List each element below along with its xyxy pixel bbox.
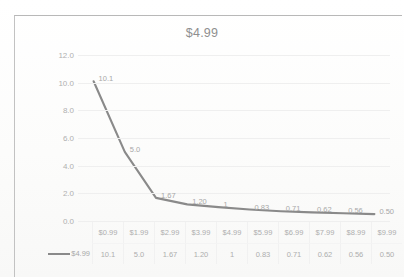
data-point-label: 1.20 bbox=[192, 197, 207, 206]
table-cell-value: 0.56 bbox=[340, 243, 371, 264]
table-cell-category: $4.99 bbox=[216, 222, 247, 243]
legend-line-icon bbox=[48, 253, 70, 255]
table-cell-value: 10.1 bbox=[92, 243, 123, 264]
gridline bbox=[78, 83, 390, 84]
chart-screenshot: $4.99 12.010.08.06.04.02.00.0 10.15.01.6… bbox=[0, 0, 404, 277]
data-point-label: 1.67 bbox=[161, 190, 176, 199]
chart-data-table: $0.99$1.99$2.99$3.99$4.99$5.99$6.99$7.99… bbox=[14, 222, 402, 264]
gridline bbox=[78, 138, 390, 139]
y-axis-tick-label: 4.0 bbox=[40, 161, 74, 170]
y-axis-tick-label: 2.0 bbox=[40, 189, 74, 198]
table-row-categories: $0.99$1.99$2.99$3.99$4.99$5.99$6.99$7.99… bbox=[14, 222, 402, 243]
y-axis: 12.010.08.06.04.02.00.0 bbox=[36, 55, 74, 221]
legend-entry-series[interactable]: $4.99 bbox=[14, 249, 92, 258]
data-point-label: 0.50 bbox=[379, 207, 394, 216]
table-cell-category: $0.99 bbox=[92, 222, 123, 243]
chart-title: $4.99 bbox=[0, 26, 404, 40]
table-row-values: $4.99 10.15.01.671.2010.830.710.620.560.… bbox=[14, 243, 402, 264]
gridline bbox=[78, 110, 390, 111]
table-cell-category: $6.99 bbox=[278, 222, 309, 243]
table-cell-category: $7.99 bbox=[309, 222, 340, 243]
table-cell-category: $3.99 bbox=[185, 222, 216, 243]
gridline bbox=[78, 55, 390, 56]
table-cell-value: 0.50 bbox=[371, 243, 402, 264]
table-cell-value: 1.67 bbox=[154, 243, 185, 264]
gridline bbox=[78, 193, 390, 194]
table-cell-category: $8.99 bbox=[340, 222, 371, 243]
data-point-label: 0.56 bbox=[348, 206, 363, 215]
data-point-label: 1 bbox=[223, 200, 227, 209]
y-axis-tick-label: 6.0 bbox=[40, 134, 74, 143]
table-cell-value: 0.83 bbox=[247, 243, 278, 264]
table-cell-category: $2.99 bbox=[154, 222, 185, 243]
y-axis-tick-label: 10.0 bbox=[40, 78, 74, 87]
table-cell-value: 0.62 bbox=[309, 243, 340, 264]
data-point-label: 0.62 bbox=[317, 205, 332, 214]
data-point-label: 10.1 bbox=[99, 74, 114, 83]
data-point-label: 0.83 bbox=[255, 202, 270, 211]
data-point-label: 5.0 bbox=[130, 144, 140, 153]
table-cell-value: 5.0 bbox=[123, 243, 154, 264]
table-cell-category: $9.99 bbox=[371, 222, 402, 243]
plot-area: 10.15.01.671.2010.830.710.620.560.50 bbox=[78, 55, 390, 221]
y-axis-tick-label: 8.0 bbox=[40, 106, 74, 115]
y-axis-tick-label: 12.0 bbox=[40, 51, 74, 60]
legend-label: $4.99 bbox=[71, 249, 90, 258]
table-cell-category: $5.99 bbox=[247, 222, 278, 243]
table-cell-value: 0.71 bbox=[278, 243, 309, 264]
table-cell-value: 1 bbox=[216, 243, 247, 264]
gridline bbox=[78, 166, 390, 167]
data-point-label: 0.71 bbox=[286, 204, 301, 213]
table-cell-category: $1.99 bbox=[123, 222, 154, 243]
table-cell-value: 1.20 bbox=[185, 243, 216, 264]
